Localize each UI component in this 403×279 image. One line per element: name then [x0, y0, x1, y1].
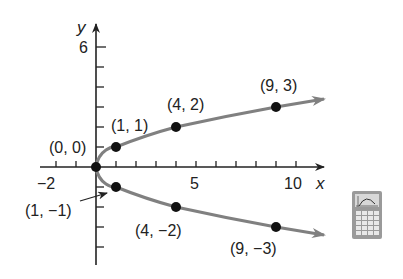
parabola-graph: y x 6 −2 5 10 (0, 0) (1, 1) (4, 2) (9, 3…	[0, 0, 403, 279]
label-1-m1: (1, −1)	[25, 202, 72, 219]
label-1-1: (1, 1)	[111, 117, 148, 134]
calculator-keys	[355, 210, 379, 236]
y-axis-label: y	[76, 18, 87, 37]
y-ticks	[96, 47, 106, 247]
label-4-2: (4, 2)	[167, 96, 204, 113]
y-tick-label-6: 6	[79, 39, 88, 56]
pointer-arrow	[80, 193, 107, 201]
label-9-m3: (9, −3)	[230, 240, 277, 257]
point-4-m2	[171, 202, 181, 212]
x-tick-label-5: 5	[190, 175, 199, 192]
label-0-0: (0, 0)	[49, 139, 86, 156]
x-tick-label-10: 10	[284, 175, 302, 192]
point-1-1	[111, 142, 121, 152]
label-9-3: (9, 3)	[260, 77, 297, 94]
point-0-0	[91, 162, 101, 172]
point-9-m3	[271, 222, 281, 232]
label-4-m2: (4, −2)	[135, 222, 182, 239]
x-axis-label: x	[315, 174, 325, 193]
point-4-2	[171, 122, 181, 132]
point-1-m1	[111, 182, 121, 192]
graphing-calculator-icon	[352, 191, 382, 239]
point-9-3	[271, 102, 281, 112]
x-tick-label-m2: −2	[37, 175, 55, 192]
calculator-screen	[355, 194, 379, 207]
